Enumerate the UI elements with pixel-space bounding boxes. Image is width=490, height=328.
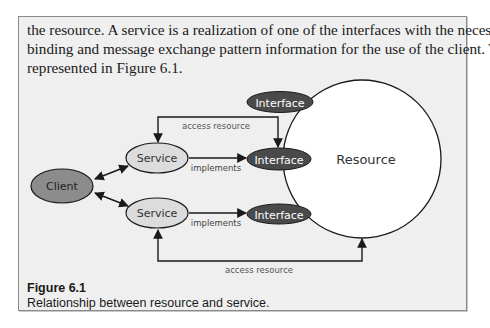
implements-label-bottom: implements [191, 218, 242, 228]
implements-label-top: implements [191, 163, 242, 173]
client-label: Client [46, 180, 79, 193]
access-resource-label-top: access resource [182, 121, 250, 131]
relationship-diagram: Resource access resource access resource… [0, 0, 490, 328]
client-service-edge-top [95, 166, 128, 179]
service-label-bottom: Service [137, 207, 178, 220]
access-resource-label-bottom: access resource [225, 265, 293, 275]
interface-label-bottom: Interface [254, 209, 303, 222]
interface-label-top: Interface [255, 97, 304, 110]
access-resource-edge-bottom [158, 230, 362, 261]
interface-label-middle: Interface [254, 154, 303, 167]
client-service-edge-bottom [95, 193, 128, 206]
resource-label: Resource [336, 152, 396, 167]
service-label-top: Service [137, 152, 178, 165]
